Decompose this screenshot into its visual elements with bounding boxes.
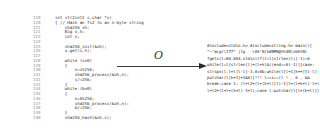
code-line: 140 sha256_hash(&sh,s); (33, 116, 153, 121)
obfuscated-line: l+l2+(l+l+(k+l)-1+l);case l:putchar(l[l+… (207, 88, 319, 94)
code-text: sha256_hash(&sh,s); (55, 116, 112, 121)
code-text: int n; (55, 35, 80, 40)
right-arrow-icon (117, 66, 201, 67)
code-text: x.get(s,5); (55, 49, 92, 54)
transform-label: O (154, 50, 163, 61)
source-code-listing: 119int str2int2 s,char *s) 120{ // Hash … (33, 16, 153, 121)
obfuscated-code-listing: #include<stdio.h> #include<string.h> mai… (207, 43, 319, 94)
obfuscated-line: while(l=l[strlen(l)+(l+k)&((end==0)-1)]{… (207, 62, 319, 68)
obfuscated-line: strspn(l,l+l]l-l]-3,0=0b;while(l{l+1[k++… (207, 69, 319, 75)
obfuscated-line: break;case 1: (l+l2+(l+(k+l)[l)-1]l+(l+k… (207, 81, 319, 87)
obfuscated-line: "~'mcgr\177" |tg -\69'N(k#NMN@%%4N\n0k%N… (207, 49, 319, 55)
arrowhead-icon (199, 63, 207, 69)
line-number: 140 (33, 116, 55, 121)
